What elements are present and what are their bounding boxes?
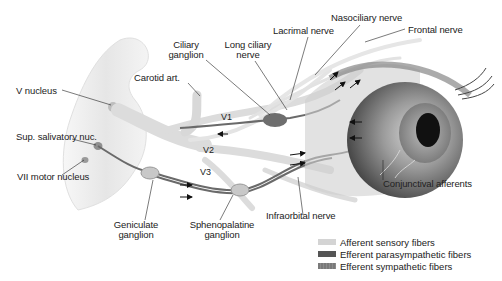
label-geniculate: Geniculate ganglion	[108, 220, 164, 240]
sphenopalatine-ganglion-shape	[231, 184, 249, 196]
label-long-ciliary: Long ciliary nerve	[220, 40, 276, 60]
label-line: ganglion	[108, 230, 164, 240]
ciliary-ganglion-shape	[263, 113, 287, 127]
geniculate-ganglion-shape	[141, 167, 159, 179]
label-vii-motor: VII motor nucleus	[17, 172, 89, 182]
legend-item-afferent: Afferent sensory fibers	[318, 236, 471, 248]
label-line: ganglion	[166, 50, 206, 60]
label-line: nerve	[220, 50, 276, 60]
legend-label: Afferent sensory fibers	[340, 237, 435, 248]
afferent-swatch	[318, 239, 336, 245]
label-nasociliary: Nasociliary nerve	[331, 13, 402, 23]
label-v-nucleus: V nucleus	[16, 86, 57, 96]
label-frontal: Frontal nerve	[408, 25, 463, 35]
legend-label: Efferent sympathetic fibers	[340, 261, 452, 272]
label-v2: V2	[203, 145, 214, 155]
label-v3: V3	[200, 167, 211, 177]
legend: Afferent sensory fibers Efferent parasym…	[318, 236, 471, 272]
label-sphenopalatine: Sphenopalatine ganglion	[182, 220, 262, 240]
label-carotid: Carotid art.	[134, 73, 180, 83]
label-conjunctival: Conjunctival afferents	[383, 179, 472, 189]
label-v1: V1	[221, 112, 232, 122]
sympathetic-swatch	[318, 263, 336, 269]
legend-label: Efferent parasympathetic fibers	[340, 249, 471, 260]
label-sup-salivatory: Sup. salivatory nuc.	[16, 132, 97, 142]
legend-item-parasympathetic: Efferent parasympathetic fibers	[318, 248, 471, 260]
label-line: ganglion	[182, 230, 262, 240]
label-lacrimal: Lacrimal nerve	[273, 26, 334, 36]
label-ciliary-ganglion: Ciliary ganglion	[166, 40, 206, 60]
nerve-diagram: V nucleus Sup. salivatory nuc. VII motor…	[0, 0, 502, 281]
label-infraorbital: Infraorbital nerve	[266, 211, 336, 221]
vii-motor-shape	[82, 157, 89, 163]
legend-item-sympathetic: Efferent sympathetic fibers	[318, 260, 471, 272]
parasympathetic-swatch	[318, 251, 336, 257]
